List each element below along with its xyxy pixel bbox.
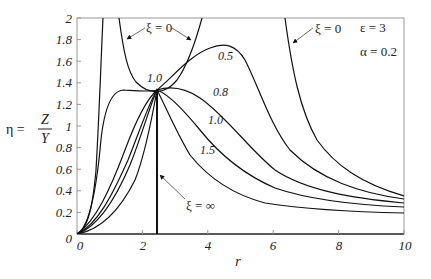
- svg-text:2: 2: [66, 11, 73, 26]
- svg-text:0.2: 0.2: [56, 205, 73, 220]
- x-axis-title: r: [235, 254, 241, 269]
- label-curve-0-5: 0.5: [218, 49, 233, 63]
- svg-text:0: 0: [77, 238, 84, 253]
- svg-text:1.8: 1.8: [56, 32, 73, 47]
- svg-text:1.2: 1.2: [56, 97, 73, 112]
- curve-xi10: [77, 90, 404, 234]
- svg-text:0.4: 0.4: [56, 183, 73, 198]
- svg-text:2: 2: [140, 238, 147, 253]
- svg-text:0.8: 0.8: [56, 140, 73, 155]
- svg-text:Y: Y: [41, 131, 51, 146]
- curve-xi1-hump: [77, 90, 157, 234]
- y-ticks: [77, 18, 81, 234]
- svg-text:0: 0: [66, 231, 73, 246]
- label-curve-1-5: 1.5: [200, 143, 215, 157]
- svg-text:1.4: 1.4: [56, 75, 73, 90]
- label-curve-1-0: 1.0: [208, 113, 223, 127]
- chart: 0 0.2 0.4 0.6 0.8 1 1.2 1.4 1.6 1.8 2 0 …: [0, 0, 431, 279]
- svg-text:10: 10: [399, 238, 413, 253]
- svg-text:8: 8: [336, 238, 343, 253]
- svg-text:4: 4: [205, 238, 212, 253]
- label-curve-0-8: 0.8: [213, 85, 228, 99]
- label-epsilon: ε = 3: [360, 20, 386, 35]
- y-axis-title: η = Z Y: [6, 112, 52, 146]
- svg-text:1: 1: [66, 119, 73, 134]
- label-xi0-right: ξ = 0: [315, 21, 341, 36]
- svg-text:η =: η =: [6, 122, 25, 137]
- y-tick-labels: 0 0.2 0.4 0.6 0.8 1 1.2 1.4 1.6 1.8 2: [56, 11, 73, 246]
- label-xi-inf: ξ = ∞: [186, 198, 215, 213]
- curve-xi15: [77, 90, 404, 234]
- label-alpha: α = 0.2: [360, 44, 397, 59]
- label-curve-1-0-top: 1.0: [147, 71, 162, 85]
- svg-text:Z: Z: [41, 112, 49, 127]
- svg-text:0.6: 0.6: [56, 162, 73, 177]
- curve-xi08: [77, 88, 404, 234]
- plot-frame: [77, 18, 404, 234]
- x-tick-labels: 0 2 4 6 8 10: [77, 238, 412, 253]
- label-xi0-top: ξ = 0: [146, 20, 172, 35]
- curve-xi05: [77, 45, 404, 234]
- svg-text:6: 6: [270, 238, 277, 253]
- svg-text:1.6: 1.6: [56, 54, 73, 69]
